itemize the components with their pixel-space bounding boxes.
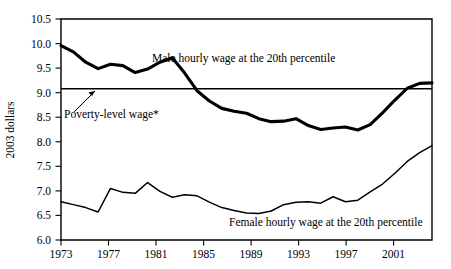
- y-axis-label-10-0: 10.0: [31, 38, 51, 50]
- y-axis-label-6-5: 6.5: [37, 209, 52, 221]
- y-axis-label-8-5: 8.5: [37, 111, 52, 123]
- male-series-annotation: Male hourly wage at the 20th percentile: [152, 52, 335, 65]
- y-axis-label-7-5: 7.5: [37, 160, 52, 172]
- x-axis-label-1977: 1977: [97, 248, 120, 260]
- x-axis-label-1989: 1989: [240, 248, 263, 260]
- y-axis-title: 2003 dollars: [4, 101, 16, 159]
- y-axis-label-9-5: 9.5: [37, 62, 52, 74]
- x-axis-label-1993: 1993: [287, 248, 310, 260]
- female-series-annotation: Female hourly wage at the 20th percentil…: [229, 216, 423, 229]
- wage-line-chart: 10.5 10.0 9.5 9.0 8.5 8.0 7.5 7.0 6.5 6.…: [0, 0, 451, 269]
- y-axis-label-6-0: 6.0: [37, 234, 52, 246]
- x-axis-label-2001: 2001: [382, 248, 405, 260]
- x-axis-label-1981: 1981: [145, 248, 168, 260]
- y-axis-label-9-0: 9.0: [37, 87, 52, 99]
- chart-container: 10.5 10.0 9.5 9.0 8.5 8.0 7.5 7.0 6.5 6.…: [0, 0, 451, 269]
- chart-background: [0, 0, 451, 269]
- poverty-line-annotation: Poverty-level wage*: [64, 108, 159, 121]
- x-axis-label-1985: 1985: [192, 248, 215, 260]
- y-axis-label-10-5: 10.5: [31, 13, 51, 25]
- x-axis-label-1997: 1997: [335, 248, 358, 260]
- y-axis-label-8-0: 8.0: [37, 136, 52, 148]
- x-axis-label-1973: 1973: [50, 248, 73, 260]
- y-axis-label-7-0: 7.0: [37, 185, 52, 197]
